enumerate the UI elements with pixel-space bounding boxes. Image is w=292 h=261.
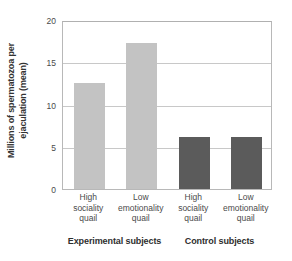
y-tick-label: 5 [51, 143, 56, 152]
plot-area [62, 21, 272, 190]
x-category-label-line: High [167, 192, 220, 203]
x-category-label-line: Low [115, 192, 168, 203]
x-axis-group-labels: Experimental subjects Control subjects [62, 236, 282, 252]
x-category-label-line: quail [167, 213, 220, 224]
x-category-label-line: sociality [62, 203, 115, 214]
x-category-label-line: sociality [167, 203, 220, 214]
y-tick-label: 0 [51, 186, 56, 195]
x-category-label-line: High [62, 192, 115, 203]
x-category-label-line: Low [220, 192, 273, 203]
x-category-label-line: quail [62, 213, 115, 224]
x-category-label-line: quail [220, 213, 273, 224]
y-axis-tick-labels: 20 15 10 5 0 [34, 0, 60, 210]
x-category-label-line: quail [115, 213, 168, 224]
x-category-label: Lowemotionalityquail [220, 192, 273, 224]
bar-series [63, 22, 271, 189]
group-label-experimental: Experimental subjects [62, 236, 167, 247]
y-axis-title: Millions of spermatozoa per ejaculation … [0, 0, 34, 200]
x-category-label: Highsocialityquail [167, 192, 220, 224]
bar [126, 43, 157, 189]
x-category-label: Highsocialityquail [62, 192, 115, 224]
bar-chart: Millions of spermatozoa per ejaculation … [0, 0, 292, 261]
y-tick-label: 10 [47, 101, 56, 110]
x-category-label: Lowemotionalityquail [115, 192, 168, 224]
y-tick-label: 15 [47, 59, 56, 68]
bar [74, 83, 105, 189]
x-axis-category-labels: HighsocialityquailLowemotionalityquailHi… [62, 192, 272, 232]
y-axis-title-line-1: Millions of spermatozoa per [6, 43, 18, 158]
group-label-control: Control subjects [167, 236, 272, 247]
y-tick-label: 20 [47, 17, 56, 26]
bar [179, 137, 210, 189]
bar [231, 137, 262, 189]
x-category-label-line: emotionality [220, 203, 273, 214]
y-axis-title-line-2: ejaculation (mean) [17, 43, 29, 158]
x-category-label-line: emotionality [115, 203, 168, 214]
